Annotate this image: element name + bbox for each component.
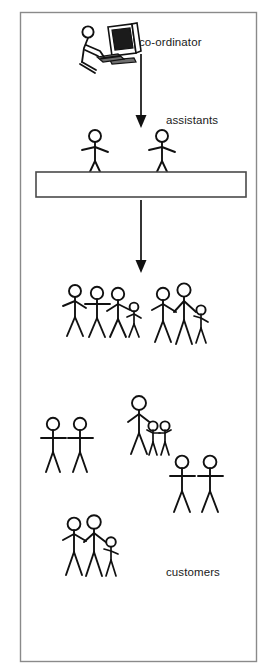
customer-figure-child [194, 305, 208, 343]
arrow-head-icon [136, 115, 147, 128]
customer-group-family-bottom [63, 515, 118, 576]
customer-group-queue-right [152, 283, 208, 344]
customer-figure-adult [198, 456, 223, 512]
customer-figure-adult [63, 518, 86, 575]
customer-figure-adult [107, 288, 130, 337]
label-assistants: assistants [166, 114, 218, 126]
customer-figure-child [104, 537, 118, 576]
customer-figure-child [159, 421, 171, 455]
customer-group-pair-left [41, 418, 93, 472]
arrow-head-icon [136, 260, 147, 273]
customer-figure-adult [84, 515, 107, 576]
customer-figure-adult [174, 283, 196, 344]
customer-figure-adult [41, 418, 66, 472]
customer-figure-adult [63, 285, 86, 336]
arrow-coordinator-to-assistants [136, 54, 147, 128]
coordinator-head [82, 26, 93, 37]
label-customers: customers [166, 566, 220, 578]
label-coordinator: co-ordinator [139, 36, 202, 48]
customer-figure-child [147, 421, 160, 455]
customer-figure-child [127, 303, 141, 337]
service-counter [36, 172, 246, 197]
coordinator-arm-lower [85, 50, 98, 56]
customer-figure-adult [152, 288, 176, 342]
customer-figure-adult [68, 418, 93, 472]
monitor-screen [112, 28, 133, 50]
diagram-canvas: co-ordinator assistants customers [0, 0, 266, 672]
arrow-assistants-to-customers [136, 200, 147, 273]
customer-figure-adult [85, 287, 110, 337]
customer-group-family-middle [128, 396, 171, 455]
customer-figure-adult [170, 456, 195, 512]
customer-group-queue-left [63, 285, 141, 337]
diagram-graphics [0, 0, 266, 672]
customer-group-pair-right [170, 456, 223, 512]
coordinator-at-computer [80, 23, 141, 73]
assistant-figure-2 [149, 130, 175, 178]
assistant-figure-1 [82, 130, 108, 178]
